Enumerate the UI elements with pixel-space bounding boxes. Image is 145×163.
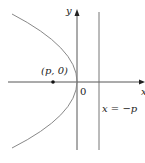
parabola-curve	[12, 14, 77, 148]
x-axis-label: x	[141, 86, 145, 97]
focus-label: (p, 0)	[41, 65, 68, 76]
directrix-label: x = −p	[102, 103, 138, 114]
x-axis-arrow-icon	[139, 80, 145, 85]
y-axis-label: y	[65, 5, 72, 16]
origin-label: 0	[80, 86, 86, 97]
focus-point	[51, 80, 55, 84]
parabola-diagram: (p, 0) 0 y x x = −p	[0, 0, 145, 163]
y-axis-arrow-icon	[75, 9, 80, 16]
